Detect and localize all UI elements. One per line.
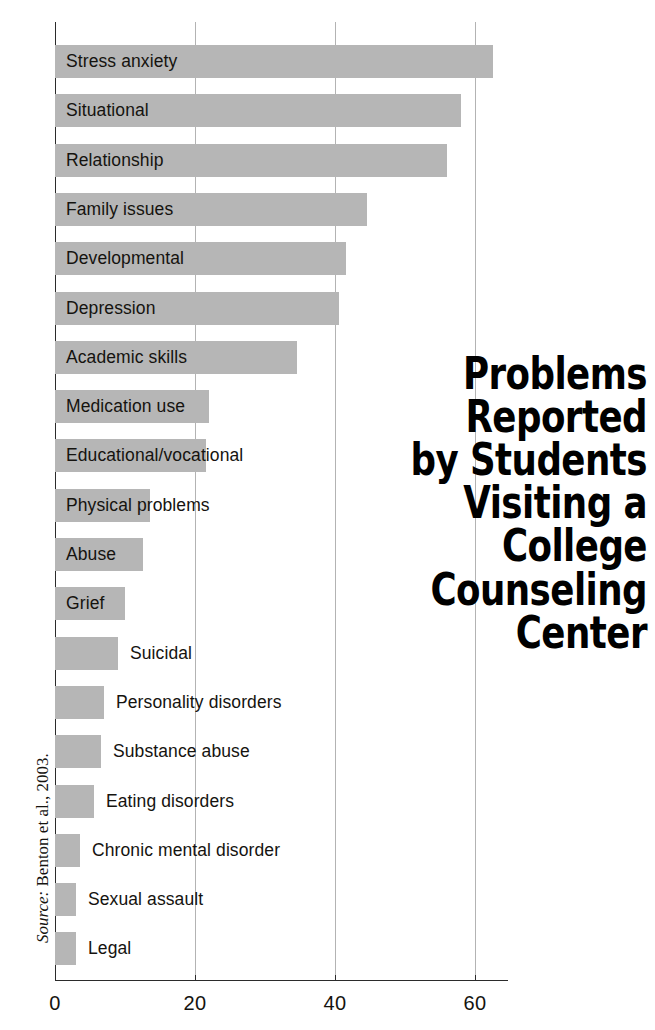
chart-figure: Stress anxietySituationalRelationshipFam…	[0, 0, 655, 1030]
bar[interactable]	[55, 785, 94, 818]
bar[interactable]	[55, 883, 76, 916]
source-label: Source:	[33, 891, 52, 943]
x-tick-mark	[195, 975, 196, 981]
bar-label: Legal	[88, 940, 131, 958]
bar-label: Developmental	[66, 250, 184, 268]
bar-label: Academic skills	[66, 349, 187, 367]
bar-label: Sexual assault	[88, 891, 203, 909]
chart-title-line: College	[395, 524, 647, 567]
x-tick-mark	[335, 975, 336, 981]
bar-label: Chronic mental disorder	[92, 842, 280, 860]
bar-label: Stress anxiety	[66, 53, 177, 71]
chart-title-line: Visiting a	[395, 481, 647, 524]
x-tick-label: 20	[183, 992, 206, 1015]
bar-label: Substance abuse	[113, 743, 250, 761]
bar-label: Eating disorders	[106, 793, 234, 811]
x-tick-label: 0	[49, 992, 61, 1015]
chart-title: ProblemsReportedby StudentsVisiting aCol…	[395, 352, 647, 654]
bar-label: Abuse	[66, 546, 116, 564]
chart-title-line: by Students	[395, 438, 647, 481]
x-axis-line	[55, 980, 508, 981]
bar-label: Situational	[66, 102, 149, 120]
bar[interactable]	[55, 834, 80, 867]
chart-title-line: Problems	[395, 352, 647, 395]
bar-label: Physical problems	[66, 497, 210, 515]
bar-label: Educational/vocational	[66, 447, 243, 465]
chart-title-line: Center	[395, 611, 647, 654]
bar-label: Medication use	[66, 398, 185, 416]
x-tick-mark	[475, 975, 476, 981]
bar-label: Depression	[66, 300, 156, 318]
source-text: Benton et al., 2003.	[33, 753, 52, 890]
bar-label: Family issues	[66, 201, 173, 219]
chart-title-line: Counseling	[395, 568, 647, 611]
bar-label: Personality disorders	[116, 694, 282, 712]
bar[interactable]	[55, 932, 76, 965]
bar[interactable]	[55, 686, 104, 719]
bar[interactable]	[55, 637, 118, 670]
x-tick-label: 60	[463, 992, 486, 1015]
chart-title-line: Reported	[395, 395, 647, 438]
bar[interactable]	[55, 735, 101, 768]
bar-label: Suicidal	[130, 645, 192, 663]
x-tick-label: 40	[323, 992, 346, 1015]
source-note: Source: Benton et al., 2003.	[33, 753, 53, 943]
bar-label: Grief	[66, 595, 104, 613]
bar-label: Relationship	[66, 152, 164, 170]
